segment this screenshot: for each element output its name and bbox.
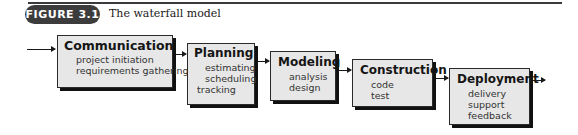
phase-item: design <box>289 82 327 93</box>
phase-item: code <box>371 79 394 90</box>
arrow-communication-to-planning <box>176 54 186 55</box>
exit-arrow <box>533 80 545 81</box>
arrow-planning-to-modeling <box>258 61 269 62</box>
phase-items-construction: code test <box>371 79 394 101</box>
figure-caption: The waterfall model <box>109 7 221 20</box>
figure-label: FIGURE 3.1 <box>25 5 100 24</box>
phase-item: feedback <box>468 110 512 121</box>
phase-title-modeling: Modeling <box>278 55 340 69</box>
phase-item: scheduling <box>205 73 256 84</box>
phase-item: support <box>468 99 512 110</box>
phase-items-modeling: analysis design <box>289 71 327 93</box>
phase-title-planning: Planning <box>194 46 253 60</box>
phase-items-deployment: delivery support feedback <box>468 88 512 121</box>
phase-items-planning: estimating scheduling tracking <box>205 62 256 95</box>
entry-arrow <box>27 49 55 50</box>
phase-item: test <box>371 90 394 101</box>
phase-title-construction: Construction <box>360 63 447 77</box>
phase-item: tracking <box>197 84 256 95</box>
phase-item: project initiation <box>76 54 189 65</box>
arrow-construction-to-deployment <box>436 78 448 79</box>
phase-title-deployment: Deployment <box>457 72 539 86</box>
top-rule <box>28 2 562 4</box>
phase-item: delivery <box>468 88 512 99</box>
arrow-modeling-to-construction <box>339 70 351 71</box>
phase-item: analysis <box>289 71 327 82</box>
phase-item: estimating <box>205 62 256 73</box>
phase-items-communication: project initiation requirements gatherin… <box>76 54 189 76</box>
figure-label-badge: FIGURE 3.1 <box>25 5 100 24</box>
phase-title-communication: Communication <box>64 38 174 53</box>
phase-item: requirements gathering <box>76 65 189 76</box>
